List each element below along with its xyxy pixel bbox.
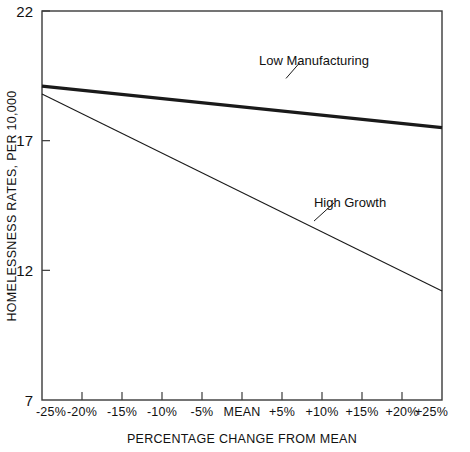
chart-container: 7121722 -25%-20%-15%-10%-5%MEAN+5%+10%+1… (0, 0, 470, 452)
x-axis-tick-labels: -25%-20%-15%-10%-5%MEAN+5%+10%+15%+20%+2… (36, 405, 448, 419)
series-label-0: Low Manufacturing (259, 53, 369, 68)
x-tick-label: MEAN (224, 405, 261, 419)
y-tick-label: 22 (16, 3, 33, 20)
x-axis-title: PERCENTAGE CHANGE FROM MEAN (127, 432, 357, 446)
y-axis-title: HOMELESSNESS RATES, PER 10,000 (5, 90, 19, 321)
line-chart: 7121722 -25%-20%-15%-10%-5%MEAN+5%+10%+1… (0, 0, 470, 452)
x-tick-label: +20% (385, 405, 418, 419)
x-tick-label: +15% (345, 405, 378, 419)
x-tick-label: -20% (67, 405, 97, 419)
x-tick-label: -15% (107, 405, 137, 419)
series-label-1: High Growth (314, 195, 386, 210)
x-tick-label: -10% (147, 405, 177, 419)
x-tick-label: +25% (415, 405, 448, 419)
y-tick-label: 7 (25, 392, 33, 409)
x-tick-label: -5% (191, 405, 214, 419)
x-tick-label: +10% (305, 405, 338, 419)
x-tick-label: -25% (36, 405, 66, 419)
x-tick-label: +5% (269, 405, 295, 419)
